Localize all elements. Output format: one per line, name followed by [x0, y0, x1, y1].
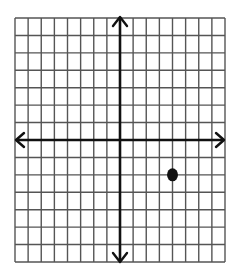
- plotted-point: [167, 168, 178, 181]
- plotted-points: [167, 168, 178, 181]
- axes: [16, 17, 224, 262]
- coordinate-plane: [0, 0, 238, 277]
